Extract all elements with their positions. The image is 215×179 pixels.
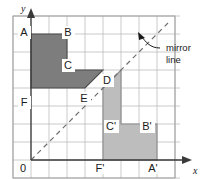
y-axis-label: y [20, 3, 26, 14]
vertex-label-A-prime: A' [148, 162, 157, 174]
x-axis-label: x [192, 165, 198, 176]
vertex-label-F: F [21, 96, 28, 108]
vertex-label-C-prime: C' [106, 120, 116, 132]
vertex-label-F-prime: F' [96, 162, 105, 174]
coordinate-grid-diagram: A B C D E F C' B' F' A' y x 0 mirror lin… [0, 0, 215, 179]
vertex-label-B: B [64, 26, 71, 38]
figure-canvas: A B C D E F C' B' F' A' y x 0 mirror lin… [0, 0, 215, 179]
vertex-label-B-prime: B' [142, 120, 151, 132]
vertex-label-A: A [20, 26, 28, 38]
origin-label: 0 [20, 162, 26, 174]
vertex-label-D: D [103, 74, 111, 86]
mirror-annotation-line1: mirror [166, 42, 191, 53]
vertex-label-C: C [64, 59, 72, 71]
vertex-label-E: E [80, 92, 87, 104]
mirror-annotation-line2: line [166, 54, 181, 65]
